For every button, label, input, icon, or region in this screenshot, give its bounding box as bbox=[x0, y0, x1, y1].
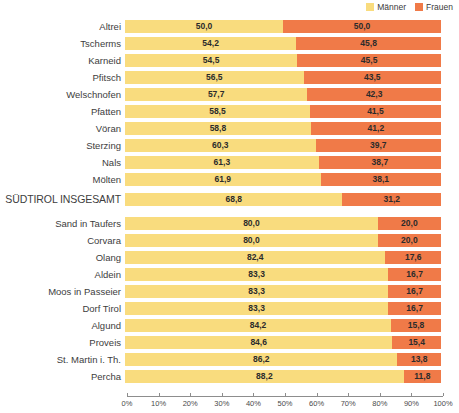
bar-segment-frauen[interactable]: 17,6 bbox=[385, 251, 441, 264]
legend-label: Frauen bbox=[426, 3, 453, 12]
category-label: Olang bbox=[0, 251, 125, 264]
bar-segment-frauen[interactable]: 50,0 bbox=[283, 20, 441, 33]
bar-segment-maenner[interactable]: 56,5 bbox=[125, 71, 304, 84]
chart-row: Moos in Passeier83,316,7 bbox=[0, 285, 459, 298]
x-axis-tick bbox=[285, 393, 286, 396]
bar-value-label: 86,2 bbox=[253, 355, 270, 364]
bar-track: 80,020,0 bbox=[125, 217, 441, 230]
bar-segment-maenner[interactable]: 84,2 bbox=[125, 319, 391, 332]
bar-segment-frauen[interactable]: 31,2 bbox=[342, 193, 441, 206]
x-axis-tick bbox=[317, 393, 318, 396]
bar-segment-maenner[interactable]: 58,8 bbox=[125, 122, 311, 135]
bar-segment-frauen[interactable]: 38,1 bbox=[321, 173, 441, 186]
x-axis-tick-label: 60% bbox=[309, 399, 324, 408]
category-label: St. Martin i. Th. bbox=[0, 353, 125, 366]
bar-segment-frauen[interactable]: 16,7 bbox=[388, 268, 441, 281]
bar-segment-frauen[interactable]: 15,4 bbox=[392, 336, 441, 349]
bar-segment-frauen[interactable]: 16,7 bbox=[388, 302, 441, 315]
bar-segment-frauen[interactable]: 43,5 bbox=[304, 71, 441, 84]
bar-segment-maenner[interactable]: 60,3 bbox=[125, 139, 316, 152]
x-axis-tick bbox=[443, 393, 444, 396]
bar-track: 60,339,7 bbox=[125, 139, 441, 152]
bar-value-label: 41,2 bbox=[368, 124, 385, 133]
bar-track: 50,050,0 bbox=[125, 20, 441, 33]
bar-segment-frauen[interactable]: 20,0 bbox=[378, 217, 441, 230]
bar-segment-frauen[interactable]: 16,7 bbox=[388, 285, 441, 298]
bar-value-label: 15,4 bbox=[408, 338, 425, 347]
bar-segment-maenner[interactable]: 50,0 bbox=[125, 20, 283, 33]
bar-segment-maenner[interactable]: 80,0 bbox=[125, 217, 378, 230]
legend-item-männer[interactable]: Männer bbox=[366, 3, 406, 12]
bar-value-label: 58,5 bbox=[209, 107, 226, 116]
bar-value-label: 15,8 bbox=[408, 321, 425, 330]
category-label: Tscherms bbox=[0, 37, 125, 50]
bar-segment-maenner[interactable]: 84,6 bbox=[125, 336, 392, 349]
x-axis-tick-label: 40% bbox=[246, 399, 261, 408]
bar-value-label: 61,3 bbox=[214, 158, 231, 167]
category-label: Algund bbox=[0, 319, 125, 332]
bar-segment-frauen[interactable]: 39,7 bbox=[316, 139, 441, 152]
legend-item-frauen[interactable]: Frauen bbox=[415, 3, 453, 12]
bar-segment-maenner[interactable]: 86,2 bbox=[125, 353, 397, 366]
bar-value-label: 20,0 bbox=[401, 236, 418, 245]
bar-track: 84,215,8 bbox=[125, 319, 441, 332]
bar-segment-maenner[interactable]: 83,3 bbox=[125, 285, 388, 298]
bar-track: 54,545,5 bbox=[125, 54, 441, 67]
bar-segment-maenner[interactable]: 58,5 bbox=[125, 105, 310, 118]
bar-value-label: 84,2 bbox=[250, 321, 267, 330]
chart-row: Sterzing60,339,7 bbox=[0, 139, 459, 152]
chart-row: Altrei50,050,0 bbox=[0, 20, 459, 33]
bar-segment-frauen[interactable]: 45,8 bbox=[296, 37, 441, 50]
x-axis-tick-label: 50% bbox=[277, 399, 292, 408]
category-label: Nals bbox=[0, 156, 125, 169]
bar-segment-maenner[interactable]: 61,3 bbox=[125, 156, 319, 169]
bar-segment-maenner[interactable]: 68,8 bbox=[125, 193, 342, 206]
bar-segment-maenner[interactable]: 83,3 bbox=[125, 268, 388, 281]
bar-segment-frauen[interactable]: 38,7 bbox=[319, 156, 441, 169]
bar-segment-maenner[interactable]: 83,3 bbox=[125, 302, 388, 315]
x-axis-tick bbox=[190, 393, 191, 396]
legend-swatch-maenner bbox=[366, 3, 374, 11]
bar-segment-frauen[interactable]: 42,3 bbox=[307, 88, 441, 101]
bar-segment-frauen[interactable]: 13,8 bbox=[397, 353, 441, 366]
bar-value-label: 83,3 bbox=[248, 304, 265, 313]
bar-track: 80,020,0 bbox=[125, 234, 441, 247]
bar-value-label: 13,8 bbox=[411, 355, 428, 364]
x-axis-tick bbox=[253, 393, 254, 396]
bar-segment-maenner[interactable]: 82,4 bbox=[125, 251, 385, 264]
stacked-bar-chart: MännerFrauen Altrei50,050,0Tscherms54,24… bbox=[0, 0, 459, 413]
bar-segment-maenner[interactable]: 61,9 bbox=[125, 173, 321, 186]
x-axis-tick-label: 30% bbox=[214, 399, 229, 408]
bar-value-label: 88,2 bbox=[256, 372, 273, 381]
x-axis-tick bbox=[159, 393, 160, 396]
chart-row: Corvara80,020,0 bbox=[0, 234, 459, 247]
bar-segment-maenner[interactable]: 88,2 bbox=[125, 370, 404, 383]
category-label: Dorf Tirol bbox=[0, 302, 125, 315]
legend-swatch-frauen bbox=[415, 3, 423, 11]
category-label: Sand in Taufers bbox=[0, 217, 125, 230]
bar-value-label: 82,4 bbox=[247, 253, 264, 262]
bar-segment-maenner[interactable]: 80,0 bbox=[125, 234, 378, 247]
bar-segment-frauen[interactable]: 41,5 bbox=[310, 105, 441, 118]
bar-segment-maenner[interactable]: 54,2 bbox=[125, 37, 296, 50]
bar-segment-frauen[interactable]: 20,0 bbox=[378, 234, 441, 247]
chart-row: Dorf Tirol83,316,7 bbox=[0, 302, 459, 315]
bar-track: 83,316,7 bbox=[125, 302, 441, 315]
bar-segment-frauen[interactable]: 11,8 bbox=[404, 370, 441, 383]
category-label: Sterzing bbox=[0, 139, 125, 152]
bar-segment-frauen[interactable]: 15,8 bbox=[391, 319, 441, 332]
bar-segment-maenner[interactable]: 57,7 bbox=[125, 88, 307, 101]
chart-rows: Altrei50,050,0Tscherms54,245,8Karneid54,… bbox=[0, 20, 459, 387]
chart-row: Algund84,215,8 bbox=[0, 319, 459, 332]
bar-value-label: 83,3 bbox=[248, 270, 265, 279]
chart-row: Pfitsch56,543,5 bbox=[0, 71, 459, 84]
chart-row: Karneid54,545,5 bbox=[0, 54, 459, 67]
category-label: Proveis bbox=[0, 336, 125, 349]
bar-segment-frauen[interactable]: 41,2 bbox=[311, 122, 441, 135]
bar-segment-frauen[interactable]: 45,5 bbox=[297, 54, 441, 67]
bar-value-label: 61,9 bbox=[215, 175, 232, 184]
chart-row: Olang82,417,6 bbox=[0, 251, 459, 264]
bar-track: 82,417,6 bbox=[125, 251, 441, 264]
category-label: Karneid bbox=[0, 54, 125, 67]
bar-segment-maenner[interactable]: 54,5 bbox=[125, 54, 297, 67]
